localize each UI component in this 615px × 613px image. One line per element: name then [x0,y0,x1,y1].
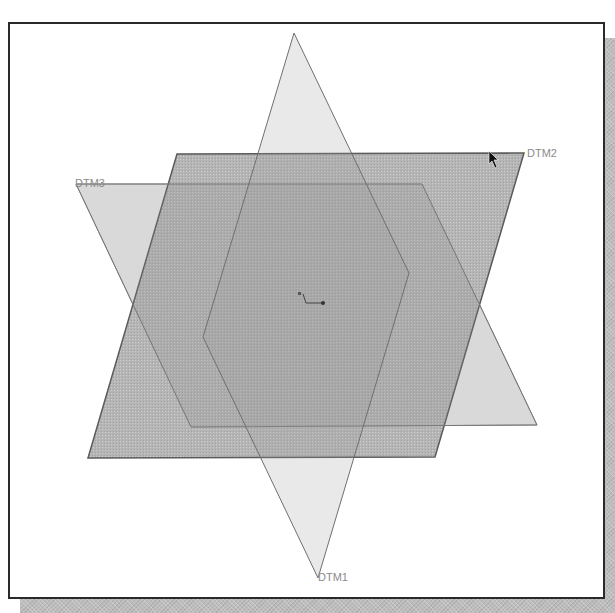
datum-plane-dtm1[interactable] [203,33,409,578]
model-scene[interactable]: DTM2 DTM3 DTM1 [0,0,615,613]
dtm3-label[interactable]: DTM3 [75,177,105,189]
dtm1-label[interactable]: DTM1 [318,571,348,583]
dtm2-label[interactable]: DTM2 [527,147,557,159]
